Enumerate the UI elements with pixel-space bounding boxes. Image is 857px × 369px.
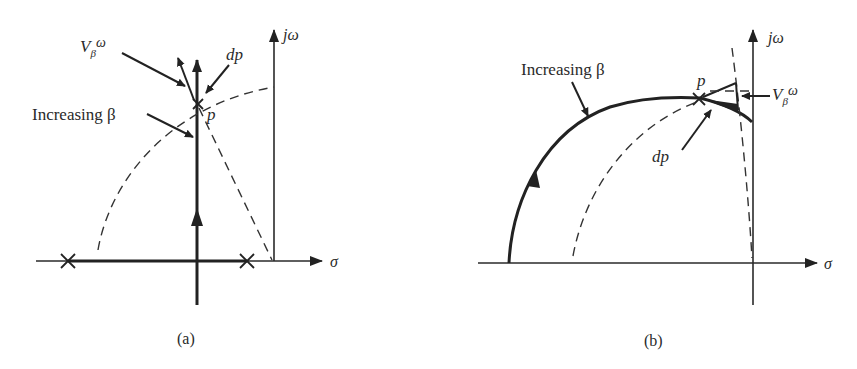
caption-b: (b) [644, 332, 663, 350]
root-locus-figure: σ jω Vβω [0, 0, 857, 369]
dashed-arc-a [98, 87, 274, 250]
increasing-pointer-a [147, 114, 193, 137]
panel-a: σ jω Vβω [32, 26, 339, 348]
locus-continuation-b [700, 98, 752, 122]
increasing-label-b: Increasing β [521, 60, 605, 79]
dp-pointer-b [682, 110, 711, 150]
velocity-vector-b [703, 83, 752, 112]
p-label-a: p [206, 105, 216, 124]
increasing-label-a: Increasing β [32, 105, 116, 124]
caption-a: (a) [177, 330, 195, 348]
dp-pointer-a [206, 65, 229, 93]
locus-direction-arrow-a [191, 208, 203, 226]
p-label-b: p [696, 71, 706, 90]
sigma-label-a: σ [330, 253, 339, 270]
jomega-label-b: jω [766, 29, 784, 47]
jomega-label-a: jω [281, 26, 299, 44]
dp-label-b: dp [652, 147, 669, 166]
velocity-label-a: Vβω [80, 35, 106, 59]
velocity-vector-a [178, 58, 194, 100]
dashed-arc-b [573, 100, 702, 256]
dashed-line-a [199, 108, 272, 260]
velocity-pointer-a [122, 53, 185, 86]
velocity-label-b: Vβω [772, 83, 798, 107]
dashed-line-b [732, 48, 752, 258]
increasing-pointer-b [572, 82, 588, 116]
panel-b: σ jω Vβω dp [478, 29, 833, 350]
sigma-label-b: σ [824, 255, 833, 272]
dp-label-a: dp [226, 45, 243, 64]
